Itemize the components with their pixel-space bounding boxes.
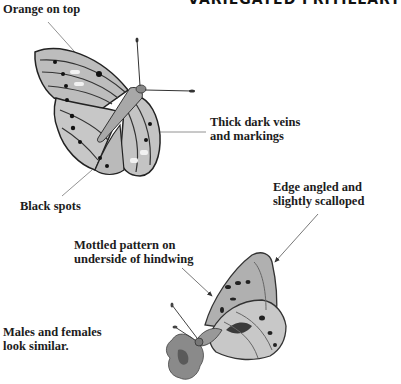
butterfly-upperside	[35, 38, 195, 177]
label-veins: Thick dark veins and markings	[210, 115, 300, 143]
label-orange-on-top: Orange on top	[3, 2, 80, 16]
label-males-females: Males and females look similar.	[3, 325, 102, 353]
label-mottled: Mottled pattern on underside of hindwing	[74, 238, 193, 266]
arrow-edge	[275, 214, 318, 262]
label-males-line1: Males and females	[3, 325, 102, 339]
label-edge-line1: Edge angled and	[273, 180, 364, 194]
label-males-line2: look similar.	[3, 339, 102, 353]
arrow-mottled	[182, 268, 212, 296]
label-mottled-line2: underside of hindwing	[74, 252, 193, 266]
label-veins-line2: and markings	[210, 129, 300, 143]
leader-black-spots	[62, 170, 92, 196]
butterfly-underside	[166, 253, 286, 379]
label-black-spots-text: Black spots	[20, 199, 81, 213]
label-orange-on-top-text: Orange on top	[3, 2, 80, 16]
label-edge: Edge angled and slightly scalloped	[273, 180, 364, 208]
label-edge-line2: slightly scalloped	[273, 194, 364, 208]
label-veins-line1: Thick dark veins	[210, 115, 300, 129]
label-mottled-line1: Mottled pattern on	[74, 238, 193, 252]
label-black-spots: Black spots	[20, 199, 81, 213]
